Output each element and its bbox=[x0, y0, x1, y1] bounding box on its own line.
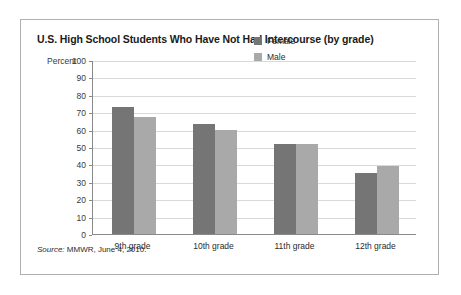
bar-group bbox=[336, 61, 417, 234]
y-axis-tick-mark bbox=[89, 148, 92, 149]
legend-item-male: Male bbox=[254, 50, 295, 63]
y-axis-tick-mark bbox=[89, 165, 92, 166]
x-axis-tick-label: 11th grade bbox=[274, 241, 314, 251]
figure-frame: U.S. High School Students Who Have Not H… bbox=[20, 19, 439, 275]
y-axis-tick-label: 10 bbox=[60, 213, 86, 223]
legend-swatch-female bbox=[254, 37, 262, 45]
bar-female-10th-grade bbox=[193, 124, 215, 234]
y-axis-tick-label: 50 bbox=[60, 143, 86, 153]
y-axis-tick-label: 80 bbox=[60, 91, 86, 101]
y-axis-tick-label: 100 bbox=[60, 56, 86, 66]
y-axis-tick-label: 40 bbox=[60, 160, 86, 170]
bar-female-9th-grade bbox=[112, 107, 134, 234]
bar-male-12th-grade bbox=[377, 166, 399, 234]
y-axis-tick-label: 60 bbox=[60, 126, 86, 136]
y-axis-tick-mark bbox=[89, 183, 92, 184]
y-axis-tick-label: 20 bbox=[60, 195, 86, 205]
y-axis-tick-mark bbox=[89, 96, 92, 97]
source-note: Source: MMWR, June 4, 2010. bbox=[37, 245, 146, 254]
bars-layer bbox=[93, 61, 416, 234]
legend: Female Male bbox=[254, 34, 295, 66]
y-axis-tick-mark bbox=[89, 113, 92, 114]
bar-female-11th-grade bbox=[274, 144, 296, 234]
page-title: U.S. High School Students Who Have Not H… bbox=[37, 33, 374, 45]
legend-item-female: Female bbox=[254, 34, 295, 47]
bar-male-11th-grade bbox=[296, 144, 318, 234]
bar-group bbox=[255, 61, 336, 234]
source-prefix: Source: bbox=[37, 245, 65, 254]
y-axis-tick-mark bbox=[89, 78, 92, 79]
x-axis-tick-label: 12th grade bbox=[355, 241, 396, 251]
y-axis-tick-mark bbox=[89, 200, 92, 201]
y-axis-tick-label: 70 bbox=[60, 108, 86, 118]
bar-female-12th-grade bbox=[355, 173, 377, 234]
y-axis-tick-mark bbox=[89, 131, 92, 132]
bar-group bbox=[93, 61, 174, 234]
legend-label-male: Male bbox=[267, 52, 285, 62]
plot-area bbox=[92, 61, 416, 235]
x-axis-tick-label: 10th grade bbox=[193, 241, 234, 251]
bar-male-10th-grade bbox=[215, 130, 237, 234]
legend-label-female: Female bbox=[267, 36, 295, 46]
source-text: MMWR, June 4, 2010. bbox=[67, 245, 147, 254]
y-axis-tick-mark bbox=[89, 61, 92, 62]
y-axis-tick-mark bbox=[89, 235, 92, 236]
bar-group bbox=[174, 61, 255, 234]
plot-wrapper bbox=[92, 61, 416, 235]
bar-male-9th-grade bbox=[134, 117, 156, 234]
legend-swatch-male bbox=[254, 53, 262, 61]
y-axis-tick-label: 90 bbox=[60, 73, 86, 83]
y-axis-tick-mark bbox=[89, 218, 92, 219]
y-axis-tick-label: 30 bbox=[60, 178, 86, 188]
y-axis-tick-label: 0 bbox=[60, 230, 86, 240]
